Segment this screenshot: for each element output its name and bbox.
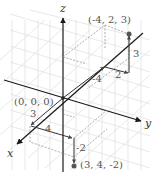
path2-y-step-label: 4 — [45, 124, 51, 134]
path2-z-step-label: -2 — [76, 143, 86, 153]
point-1-label: (-4, 2, 3) — [88, 15, 131, 25]
point-3-4-neg2 — [72, 164, 77, 169]
path-point-2 — [30, 98, 107, 169]
origin-label: (0, 0, 0) — [14, 97, 54, 107]
point-2-label: (3, 4, -2) — [80, 160, 123, 170]
path2-x-step-label: 3 — [30, 109, 36, 119]
path1-y-step-label: 2 — [115, 70, 121, 80]
path-point-1 — [63, 25, 132, 98]
path1-z-step-label: 3 — [133, 49, 139, 59]
x-axis-label: x — [7, 148, 13, 159]
y-axis-label: y — [145, 118, 151, 129]
point-neg4-2-3 — [127, 32, 132, 37]
path1-x-step-label: -4 — [92, 74, 102, 84]
z-axis-label: z — [60, 3, 66, 14]
